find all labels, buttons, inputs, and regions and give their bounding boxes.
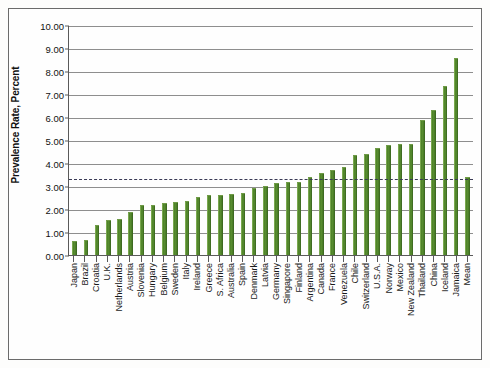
x-label-slot: U.K.: [102, 263, 113, 359]
x-tick-label: Singapore: [283, 263, 292, 304]
y-tick-label: 8.00: [20, 67, 64, 78]
x-label-slot: Thailand: [417, 263, 428, 359]
bar-slot: [394, 26, 405, 255]
x-axis-labels: JapanBrazilCroatiaU.K.NetherlandsAustria…: [68, 263, 473, 359]
x-tick-mark: [309, 256, 310, 262]
x-tick-slot: [136, 256, 147, 262]
x-tick-label: Mexico: [395, 263, 404, 292]
x-tick-slot: [158, 256, 169, 262]
x-label-slot: Spain: [237, 263, 248, 359]
bar-slot: [148, 26, 159, 255]
bar: [140, 205, 145, 255]
x-tick-slot: [271, 256, 282, 262]
x-tick-slot: [113, 256, 124, 262]
x-label-slot: Venezuela: [338, 263, 349, 359]
x-label-slot: Italy: [181, 263, 192, 359]
x-tick-label: Hungary: [148, 263, 157, 297]
x-tick-slot: [372, 256, 383, 262]
bar: [72, 241, 77, 255]
bar: [128, 212, 133, 255]
x-tick-mark: [321, 256, 322, 262]
x-tick-label: Denmark: [249, 263, 258, 300]
bar: [196, 197, 201, 255]
x-tick-slot: [349, 256, 360, 262]
x-tick-slot: [192, 256, 203, 262]
x-label-slot: Netherlands: [113, 263, 124, 359]
bar-slot: [226, 26, 237, 255]
x-tick-mark: [354, 256, 355, 262]
x-tick-slot: [282, 256, 293, 262]
bar-slot: [462, 26, 473, 255]
x-tick-label: France: [328, 263, 337, 291]
bar: [375, 148, 380, 255]
bar-slot: [114, 26, 125, 255]
bar-slot: [192, 26, 203, 255]
x-tick-slot: [316, 256, 327, 262]
x-label-slot: Norway: [383, 263, 394, 359]
x-tick-label: Jamaica: [452, 263, 461, 297]
chart-figure: Prevalence Rate, Percent 10.009.008.007.…: [0, 0, 490, 368]
x-label-slot: Sweden: [169, 263, 180, 359]
x-label-slot: Slovenia: [136, 263, 147, 359]
bar-slot: [282, 26, 293, 255]
bar: [465, 177, 470, 255]
x-tick-slot: [147, 256, 158, 262]
bar-slot: [271, 26, 282, 255]
x-tick-label: Austria: [125, 263, 134, 291]
x-label-slot: Japan: [68, 263, 79, 359]
x-tick-slot: [203, 256, 214, 262]
x-tick-slot: [338, 256, 349, 262]
x-tick-label: Chile: [350, 263, 359, 284]
x-tick-mark: [298, 256, 299, 262]
bar-slot: [439, 26, 450, 255]
x-tick-label: Argentina: [305, 263, 314, 302]
x-label-slot: Switzerland: [361, 263, 372, 359]
bar: [286, 182, 291, 255]
bar: [162, 203, 167, 255]
bar: [263, 186, 268, 255]
bar-slot: [316, 26, 327, 255]
x-tick-label: Mean: [463, 263, 472, 286]
x-tick-slot: [394, 256, 405, 262]
bar: [297, 182, 302, 255]
x-label-slot: Australia: [226, 263, 237, 359]
bar: [364, 154, 369, 255]
x-tick-slot: [383, 256, 394, 262]
x-tick-mark: [84, 256, 85, 262]
x-label-slot: U.S.A.: [372, 263, 383, 359]
x-tick-slot: [237, 256, 248, 262]
x-tick-label: Germany: [272, 263, 281, 300]
x-tick-mark: [141, 256, 142, 262]
y-tick-label: 1.00: [20, 228, 64, 239]
bar: [330, 170, 335, 255]
x-tick-mark: [399, 256, 400, 262]
x-tick-mark: [444, 256, 445, 262]
x-tick-mark: [152, 256, 153, 262]
x-label-slot: Canada: [316, 263, 327, 359]
bar: [319, 173, 324, 255]
x-tick-mark: [208, 256, 209, 262]
x-tick-mark: [96, 256, 97, 262]
x-axis-ticks: [68, 256, 473, 262]
x-label-slot: France: [327, 263, 338, 359]
x-tick-mark: [231, 256, 232, 262]
bar: [443, 86, 448, 255]
bar-slot: [80, 26, 91, 255]
x-label-slot: Argentina: [304, 263, 315, 359]
x-tick-label: New Zealand: [407, 263, 416, 316]
x-tick-mark: [129, 256, 130, 262]
x-tick-mark: [174, 256, 175, 262]
x-tick-label: Brazil: [80, 263, 89, 286]
x-tick-slot: [102, 256, 113, 262]
x-tick-label: Iceland: [440, 263, 449, 292]
x-label-slot: Germany: [271, 263, 282, 359]
x-tick-mark: [107, 256, 108, 262]
x-tick-mark: [118, 256, 119, 262]
x-tick-slot: [406, 256, 417, 262]
x-tick-label: Ireland: [193, 263, 202, 291]
x-tick-mark: [467, 256, 468, 262]
x-tick-slot: [214, 256, 225, 262]
y-tick-label: 0.00: [20, 251, 64, 262]
bar: [117, 219, 122, 255]
bar-slot: [450, 26, 461, 255]
